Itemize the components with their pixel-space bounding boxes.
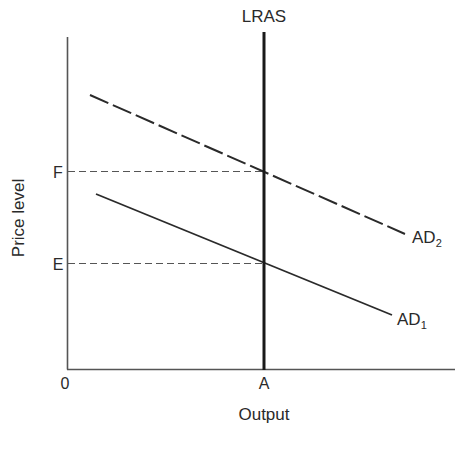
origin-label: 0	[61, 375, 70, 392]
x-axis-label: Output	[238, 405, 289, 424]
ad2-label-main: AD	[412, 228, 436, 247]
f-tick-label: F	[53, 164, 63, 181]
ad-lras-diagram: LRAS AD2 AD1 F E 0 A Output Price level	[0, 0, 463, 449]
ad2-label: AD2	[412, 228, 442, 249]
lras-label: LRAS	[242, 7, 286, 26]
ad2-label-sub: 2	[436, 237, 442, 249]
y-axis-label: Price level	[9, 179, 28, 257]
ad1-label-main: AD	[397, 310, 421, 329]
a-tick-label: A	[259, 375, 270, 392]
ad1-label-sub: 1	[421, 319, 427, 331]
ad1-curve	[96, 194, 392, 315]
ad1-label: AD1	[397, 310, 427, 331]
e-tick-label: E	[53, 256, 64, 273]
ad2-curve	[90, 95, 405, 234]
